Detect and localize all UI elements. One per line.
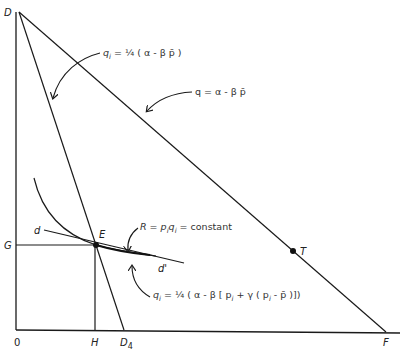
label-d: d: [34, 225, 41, 236]
label-d-prime: d': [158, 263, 167, 274]
equation-market-demand: q = α - β p̄: [195, 86, 246, 97]
point-T: [290, 248, 296, 254]
arrow-eq3: [128, 228, 138, 251]
individual-demand-line: [44, 230, 184, 263]
label-E: E: [99, 229, 106, 240]
equation-reaction-line: qi = ¼ ( α - β p̄ ): [103, 47, 182, 61]
label-D: D: [4, 7, 12, 18]
equation-iso-revenue: R = piqi = constant: [140, 221, 232, 235]
diagram: D G 0 H D4 F E T d d' qi = ¼ ( α - β p̄ …: [0, 0, 410, 356]
arrow-eq4: [132, 266, 150, 297]
label-T: T: [300, 246, 307, 257]
tangency-segment: [96, 245, 150, 255]
equation-individual-demand: qi = ¼ ( α - β [ pi + γ ( pi - p̄ )]): [153, 289, 300, 303]
x-axis: [16, 330, 400, 333]
label-D4: D4: [120, 337, 133, 351]
market-demand-line: [19, 12, 386, 332]
label-H: H: [91, 337, 99, 348]
arrow-eq1: [53, 53, 100, 98]
point-E: [93, 242, 99, 248]
arrow-eq2: [147, 92, 192, 111]
label-F: F: [383, 337, 389, 348]
label-G: G: [4, 240, 12, 251]
label-origin: 0: [14, 337, 20, 348]
